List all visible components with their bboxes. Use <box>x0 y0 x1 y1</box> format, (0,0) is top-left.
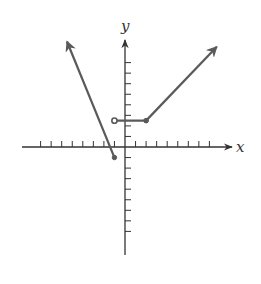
x-axis-label: x <box>236 138 245 156</box>
curves <box>67 42 217 160</box>
left-ray <box>67 42 114 158</box>
right-ray <box>146 47 217 121</box>
y-axis-label: y <box>120 17 130 35</box>
open-endpoint <box>112 118 117 123</box>
closed-endpoint <box>144 118 148 122</box>
piecewise-graph: x y <box>0 0 261 284</box>
closed-endpoint <box>112 155 116 159</box>
